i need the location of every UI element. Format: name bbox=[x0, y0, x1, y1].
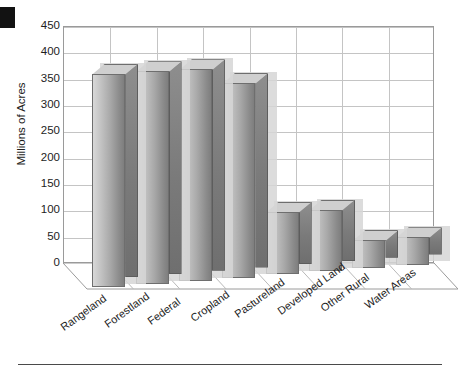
x-axis-label-cropland: Cropland bbox=[189, 288, 232, 323]
x-axis-label-rangeland: Rangeland bbox=[59, 293, 109, 333]
x-axis-category-labels: Water AreasOther RuralDeveloped LandPast… bbox=[0, 0, 458, 376]
x-axis-label-developed-land: Developed Land bbox=[276, 261, 347, 317]
x-axis-label-pastureland: Pastureland bbox=[232, 277, 286, 320]
page-bottom-rule bbox=[18, 364, 442, 365]
x-axis-label-federal: Federal bbox=[146, 296, 183, 327]
x-axis-label-forestland: Forestland bbox=[102, 291, 151, 330]
chart-page: 050100150200250300350400450 Millions of … bbox=[0, 0, 458, 376]
x-axis-label-water-areas: Water Areas bbox=[363, 266, 418, 310]
